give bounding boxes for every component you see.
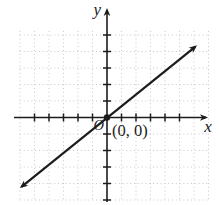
origin-point-dot [104, 114, 110, 120]
coordinate-plane-figure: y x O (0, 0) [0, 0, 219, 205]
origin-point-annotation: (0, 0) [112, 121, 148, 140]
y-axis-label: y [91, 0, 101, 19]
origin-label: O [94, 117, 105, 133]
x-axis-label: x [203, 117, 212, 136]
graph-svg: y x O (0, 0) [0, 0, 219, 205]
